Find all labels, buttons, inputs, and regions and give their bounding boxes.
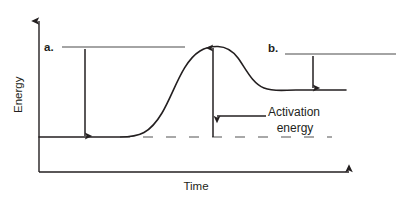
level-a-label: a. xyxy=(44,41,54,53)
y-axis-title: Energy xyxy=(12,76,24,113)
level-b-label: b. xyxy=(268,42,278,54)
x-axis-title: Time xyxy=(183,180,208,192)
activation-energy-label-line2: energy xyxy=(277,121,314,135)
energy-diagram-canvas: Energy Time a. b. Activation energy xyxy=(0,0,412,200)
energy-diagram-figure: Energy Time a. b. Activation energy xyxy=(0,0,412,200)
activation-energy-label-line1: Activation xyxy=(268,105,320,119)
